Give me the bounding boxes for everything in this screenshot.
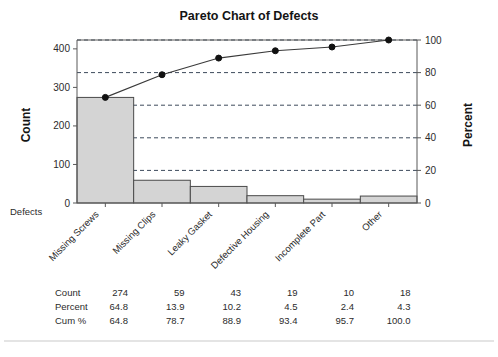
cumulative-marker-1 (159, 72, 165, 78)
table-cell-0-5: 18 (400, 287, 411, 298)
percent-tick-label: 60 (425, 100, 437, 111)
bar-0 (77, 97, 134, 203)
pareto-chart-svg: Pareto Chart of Defects 0100200300400 02… (0, 0, 498, 357)
category-label-4: Incomplete Part (273, 208, 328, 263)
category-label-3: Defective Housing (208, 209, 270, 271)
category-axis-ticks (105, 203, 388, 207)
cumulative-marker-0 (102, 94, 108, 100)
cumulative-marker-2 (216, 55, 222, 61)
count-tick-label: 300 (53, 82, 70, 93)
table-cell-1-1: 13.9 (166, 301, 185, 312)
table-cell-2-2: 88.9 (223, 315, 242, 326)
table-cell-1-3: 4.5 (284, 301, 297, 312)
chart-title: Pareto Chart of Defects (180, 9, 319, 23)
percent-axis-ticks: 020406080100 (417, 35, 442, 209)
table-cell-0-1: 59 (174, 287, 185, 298)
cumulative-marker-4 (329, 44, 335, 50)
percent-tick-label: 20 (425, 165, 437, 176)
table-row-header-0: Count (55, 287, 81, 298)
category-labels: Missing ScrewsMissing ClipsLeaky GasketD… (46, 208, 384, 271)
bar-2 (190, 186, 247, 203)
table-cell-0-3: 19 (287, 287, 298, 298)
table-cell-1-5: 4.3 (397, 301, 410, 312)
cumulative-marker-3 (272, 48, 278, 54)
table-cell-1-2: 10.2 (223, 301, 242, 312)
data-table: Count2745943191018Percent64.813.910.24.5… (55, 287, 411, 326)
table-cell-0-2: 43 (230, 287, 241, 298)
bar-1 (134, 180, 191, 203)
count-tick-label: 200 (53, 120, 70, 131)
percent-tick-label: 0 (425, 198, 431, 209)
table-cell-0-4: 10 (343, 287, 354, 298)
percent-axis-title: Percent (461, 103, 475, 147)
category-label-5: Other (359, 209, 384, 234)
bar-5 (360, 196, 417, 203)
count-tick-label: 400 (53, 43, 70, 54)
bar-3 (247, 196, 304, 203)
table-row-header-1: Percent (55, 301, 88, 312)
pareto-chart-figure: Pareto Chart of Defects 0100200300400 02… (0, 0, 498, 357)
cumulative-line-path (105, 40, 388, 97)
count-axis-ticks: 0100200300400 (53, 43, 77, 208)
bars-group (77, 97, 417, 203)
percent-tick-label: 40 (425, 132, 437, 143)
table-cell-2-3: 93.4 (279, 315, 298, 326)
category-label-0: Missing Screws (46, 208, 101, 263)
count-tick-label: 100 (53, 159, 70, 170)
table-cell-2-5: 100.0 (387, 315, 411, 326)
table-row-header-2: Cum % (55, 315, 87, 326)
table-cell-0-0: 274 (112, 287, 128, 298)
count-axis-title: Count (19, 108, 33, 143)
count-tick-label: 0 (64, 198, 70, 209)
cumulative-percent-line (102, 37, 391, 100)
cumulative-marker-5 (386, 37, 392, 43)
percent-tick-label: 80 (425, 67, 437, 78)
defects-axis-title: Defects (10, 206, 42, 217)
category-label-2: Leaky Gasket (165, 208, 214, 257)
table-cell-1-0: 64.8 (110, 301, 129, 312)
category-label-1: Missing Clips (110, 208, 158, 256)
table-cell-2-0: 64.8 (110, 315, 129, 326)
table-cell-2-4: 95.7 (336, 315, 355, 326)
table-cell-2-1: 78.7 (166, 315, 185, 326)
bar-4 (304, 199, 361, 203)
table-cell-1-4: 2.4 (341, 301, 354, 312)
percent-tick-label: 100 (425, 35, 442, 46)
